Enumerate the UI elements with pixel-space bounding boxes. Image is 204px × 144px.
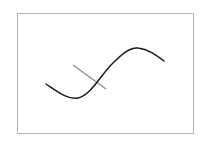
- diagram-figure: [0, 0, 204, 144]
- figure-frame: [18, 14, 194, 134]
- s-curve: [46, 48, 164, 98]
